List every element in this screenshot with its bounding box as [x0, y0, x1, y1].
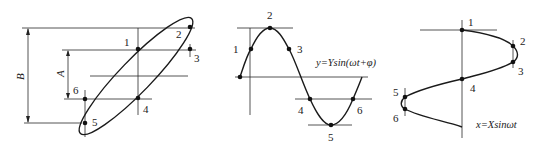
y-point-1: [249, 47, 254, 52]
x-point-5: [403, 95, 408, 100]
y-label-2: 2: [267, 9, 273, 21]
ellipse-point-5: [83, 121, 88, 126]
x-label-5: 5: [393, 86, 399, 98]
x-point-2: [511, 44, 516, 49]
ellipse-label-1: 1: [124, 36, 130, 48]
b-label: B: [14, 73, 26, 80]
y-label-5: 5: [328, 131, 334, 143]
ellipse-label-6: 6: [73, 84, 79, 96]
ellipse-point-2: [188, 25, 193, 30]
x-label-1: 1: [468, 16, 474, 28]
x-label-3: 3: [518, 65, 524, 77]
y-label-6: 6: [357, 104, 363, 116]
b-arrow-head-bottom: [26, 116, 30, 123]
ellipse-point-6: [83, 97, 88, 102]
y-point-2: [268, 26, 273, 31]
y-point-6: [351, 97, 356, 102]
a-label: A: [54, 70, 66, 78]
ellipse-label-5: 5: [92, 116, 98, 128]
y-label-1: 1: [233, 43, 239, 55]
y-point-4: [308, 97, 313, 102]
y-point-3: [287, 47, 292, 52]
ellipse-point-4: [136, 96, 141, 101]
x-label-4: 4: [470, 82, 476, 94]
ellipse-point-1: [136, 47, 141, 52]
x-point-1: [460, 28, 465, 33]
x-sine-curve: [401, 30, 517, 127]
x-label-2: 2: [520, 35, 526, 47]
ellipse-label-2: 2: [176, 28, 182, 40]
a-arrow-head-bottom: [66, 93, 70, 99]
x-point-6: [403, 107, 408, 112]
y-point-start: [238, 75, 243, 80]
ellipse-label-3: 3: [194, 52, 200, 64]
a-arrow-head-top: [66, 50, 70, 56]
x-point-4: [460, 77, 465, 82]
ellipse-panel: B A 1 2 3 4 5 6: [14, 7, 203, 144]
ellipse-label-4: 4: [143, 103, 149, 115]
y-point-5: [329, 123, 334, 128]
x-point-3: [511, 60, 516, 65]
ellipse-point-3: [188, 47, 193, 52]
y-label-3: 3: [297, 43, 303, 55]
x-equation: x=Xsinωt: [475, 119, 518, 130]
y-label-4: 4: [298, 104, 304, 116]
y-equation: y=Ysin(ωt+φ): [315, 57, 377, 69]
lissajous-diagram: B A 1 2 3 4 5 6 1: [0, 0, 541, 151]
b-arrow-head-top: [26, 28, 30, 35]
x-label-6: 6: [393, 112, 399, 124]
y-sine-panel: 1 2 3 4 5 6 y=Ysin(ωt+φ): [233, 9, 377, 143]
x-sine-panel: 1 2 3 4 5 6 x=Xsinωt: [393, 16, 526, 138]
